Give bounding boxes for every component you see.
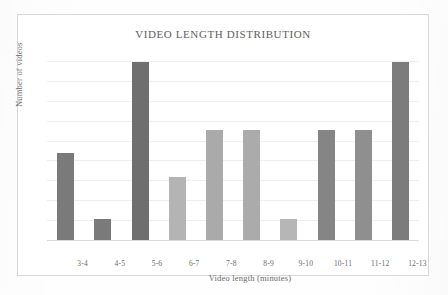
bar-12-13[interactable] bbox=[392, 62, 409, 241]
bar-series bbox=[47, 42, 419, 241]
bar-slot bbox=[196, 42, 233, 241]
bar-slot bbox=[84, 42, 121, 241]
x-tick-3-4: 3-4 bbox=[64, 259, 101, 268]
bar-slot bbox=[307, 42, 344, 241]
bar-5-6[interactable] bbox=[132, 62, 149, 241]
bar-3-4[interactable] bbox=[57, 153, 74, 241]
x-axis-line bbox=[47, 240, 419, 241]
bar-slot bbox=[270, 42, 307, 241]
plot-area bbox=[47, 42, 419, 241]
x-tick-4-5: 4-5 bbox=[101, 259, 138, 268]
x-tick-6-7: 6-7 bbox=[176, 259, 213, 268]
x-tick-10-11: 10-11 bbox=[324, 259, 361, 268]
chart-title: VIDEO LENGTH DISTRIBUTION bbox=[18, 28, 428, 40]
bar-9-10[interactable] bbox=[280, 219, 297, 241]
y-axis-label: Number of videos bbox=[14, 0, 24, 107]
bar-7-8[interactable] bbox=[206, 130, 223, 241]
bar-4-5[interactable] bbox=[94, 219, 111, 241]
x-tick-9-10: 9-10 bbox=[287, 259, 324, 268]
bar-slot bbox=[47, 42, 84, 241]
bar-slot bbox=[121, 42, 158, 241]
bar-slot bbox=[345, 42, 382, 241]
x-tick-12-13: 12-13 bbox=[399, 259, 436, 268]
bar-slot bbox=[159, 42, 196, 241]
x-tick-11-12: 11-12 bbox=[362, 259, 399, 268]
chart-frame: VIDEO LENGTH DISTRIBUTION Number of vide… bbox=[17, 14, 429, 276]
x-tick-5-6: 5-6 bbox=[138, 259, 175, 268]
x-axis-label: Video length (minutes) bbox=[64, 273, 436, 283]
bar-6-7[interactable] bbox=[169, 177, 186, 241]
bar-10-11[interactable] bbox=[318, 130, 335, 241]
x-tick-8-9: 8-9 bbox=[250, 259, 287, 268]
bar-8-9[interactable] bbox=[243, 130, 260, 241]
x-axis-tick-labels: 3-44-55-66-77-88-99-1010-1111-1212-13 bbox=[64, 259, 436, 268]
bar-slot bbox=[233, 42, 270, 241]
x-tick-7-8: 7-8 bbox=[213, 259, 250, 268]
bar-11-12[interactable] bbox=[355, 130, 372, 241]
bar-slot bbox=[382, 42, 419, 241]
